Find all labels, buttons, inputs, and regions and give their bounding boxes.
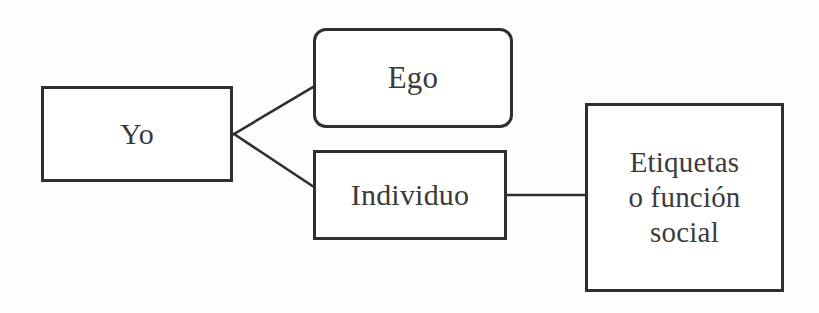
diagram-canvas: Yo Ego Individuo Etiquetas o función soc… — [0, 0, 819, 313]
node-ego-label: Ego — [388, 61, 439, 96]
node-etiquetas[interactable]: Etiquetas o función social — [585, 103, 784, 292]
node-yo-label: Yo — [120, 117, 154, 151]
node-individuo-label: Individuo — [351, 178, 469, 212]
connector-yo-ego — [234, 87, 313, 134]
node-ego[interactable]: Ego — [313, 28, 513, 128]
node-yo[interactable]: Yo — [41, 86, 233, 182]
node-individuo[interactable]: Individuo — [313, 150, 507, 240]
node-etiquetas-label: Etiquetas o función social — [628, 145, 740, 249]
connector-yo-individuo — [234, 134, 314, 187]
